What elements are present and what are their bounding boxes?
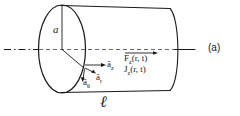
unit-vector-ar-label: âr (96, 73, 102, 84)
figure-cylinder-conductor: a âz âr âθ Fz(r, t) Jz(r, t) ℓ (a) (0, 0, 240, 116)
unit-vector-az-base: â (107, 59, 111, 69)
unit-vector-az-subscript: z (111, 65, 114, 71)
figure-part-label: (a) (208, 43, 220, 53)
length-symbol-label: ℓ (100, 94, 107, 110)
field-label-jz: Jz(r, t) (124, 65, 146, 76)
unit-vector-ar-base: â (96, 72, 100, 82)
unit-vector-ar-subscript: r (100, 78, 102, 84)
field-label-jz-args: (r, t) (130, 64, 146, 74)
unit-vector-atheta-subscript: θ (87, 83, 90, 89)
cylinder-bottom-edge (61, 91, 170, 93)
radius-line-oblique (62, 50, 84, 69)
radius-label: a (53, 24, 59, 35)
field-vector-overarrow-head (153, 51, 158, 55)
field-label-fz-args: (r, t) (132, 53, 148, 63)
unit-vector-az-arrowhead (101, 63, 106, 67)
unit-vector-az-label: âz (107, 60, 114, 71)
unit-vector-atheta-label: âθ (83, 78, 90, 89)
figure-drawing-canvas (0, 0, 240, 116)
unit-vector-atheta-base: â (83, 77, 87, 87)
cylinder-top-edge (61, 6, 170, 9)
